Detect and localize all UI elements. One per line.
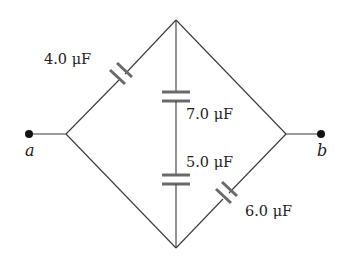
capacitor-6uF-plate-1 — [216, 189, 231, 203]
capacitor-4uF-plate-2 — [117, 63, 132, 77]
capacitor-6uF-branch: 6.0 μF — [176, 134, 292, 248]
terminal-b-label: b — [317, 141, 327, 160]
terminal-a-dot — [25, 130, 33, 138]
capacitor-4uF-branch: 4.0 μF — [44, 20, 176, 134]
terminal-b-lead: b — [286, 130, 327, 160]
wire-left-to-bottom — [66, 134, 176, 248]
capacitor-7uF-branch: 7.0 μF — [162, 20, 233, 175]
capacitor-5uF-label: 5.0 μF — [186, 154, 233, 170]
capacitor-4uF-label: 4.0 μF — [44, 51, 91, 67]
capacitor-5uF-branch: 5.0 μF — [162, 154, 233, 248]
terminal-a-label: a — [25, 141, 35, 160]
capacitor-6uF-plate-2 — [222, 182, 237, 196]
terminal-b-dot — [317, 130, 325, 138]
capacitor-circuit-diagram: a b 4.0 μF 7.0 μF 5.0 μF 6.0 μF — [0, 0, 345, 256]
capacitor-7uF-label: 7.0 μF — [186, 106, 233, 122]
capacitor-6uF-label: 6.0 μF — [245, 203, 292, 219]
terminal-a-lead: a — [25, 130, 66, 160]
